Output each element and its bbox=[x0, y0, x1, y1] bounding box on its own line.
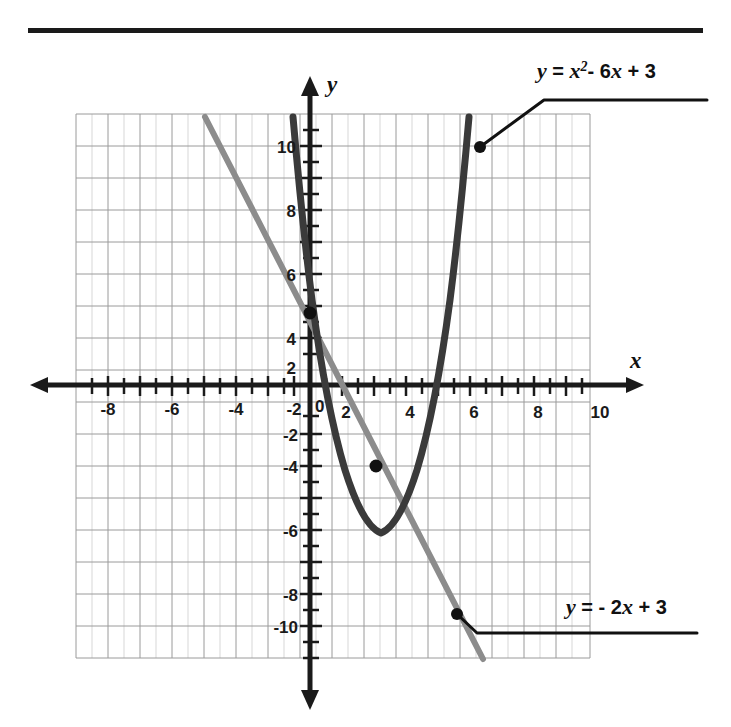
parabola-eq-y: y bbox=[534, 58, 547, 83]
x-tick-label--2: -2 bbox=[286, 400, 301, 419]
x-axis-label: x bbox=[629, 348, 642, 373]
x-tick-label--4: -4 bbox=[228, 400, 244, 419]
x-tick-label-6: 6 bbox=[469, 403, 478, 422]
x-axis-left-arrow bbox=[30, 377, 48, 393]
parabola-equation-label: y = x2- 6x + 3 bbox=[534, 58, 656, 83]
x-axis-right-arrow bbox=[626, 377, 644, 393]
y-tick-label-2: 2 bbox=[287, 359, 296, 378]
y-tick-label-8: 8 bbox=[287, 202, 296, 221]
line-callout-dot bbox=[451, 608, 463, 620]
parabola-eq-x1: x bbox=[569, 58, 581, 83]
y-tick-label--10: -10 bbox=[273, 618, 298, 637]
line-eq-equals: = bbox=[576, 596, 599, 618]
top-divider-rule bbox=[28, 28, 703, 33]
y-tick-label--6: -6 bbox=[283, 522, 298, 541]
y-tick-label--8: -8 bbox=[283, 586, 298, 605]
y-tick-label-6: 6 bbox=[287, 266, 296, 285]
line-eq-y: y bbox=[563, 594, 576, 619]
graph-figure: y x 0 -8 -6 -4 -2 2 4 6 8 10 10 8 6 4 2 … bbox=[0, 0, 731, 727]
line-curve bbox=[205, 117, 483, 659]
y-tick-label--2: -2 bbox=[283, 426, 298, 445]
y-axis-top-arrow bbox=[301, 76, 319, 96]
origin-label: 0 bbox=[315, 397, 324, 416]
y-axis-label: y bbox=[324, 72, 338, 97]
y-tick-label--4: -4 bbox=[283, 458, 299, 477]
x-tick-label-10: 10 bbox=[591, 403, 610, 422]
y-axis-bottom-arrow bbox=[301, 690, 319, 710]
x-tick-label-4: 4 bbox=[405, 403, 415, 422]
parabola-curve bbox=[293, 117, 469, 533]
x-tick-label-2: 2 bbox=[341, 403, 350, 422]
line-equation-label: y = - 2x + 3 bbox=[563, 594, 667, 619]
parabola-eq-equals: = bbox=[547, 60, 570, 82]
parabola-callout-dot bbox=[474, 141, 486, 153]
line-eq-tail: + 3 bbox=[633, 596, 667, 618]
intersection-point-y-intercept bbox=[304, 307, 317, 320]
y-tick-label-4: 4 bbox=[287, 330, 297, 349]
intersection-point-lower bbox=[370, 460, 383, 473]
parabola-eq-exponent: 2 bbox=[580, 59, 588, 74]
parabola-eq-rest: - 6 bbox=[588, 60, 611, 82]
line-eq-coefficient: - 2 bbox=[599, 596, 622, 618]
x-tick-label-8: 8 bbox=[533, 403, 542, 422]
parabola-eq-x2: x bbox=[610, 58, 622, 83]
coordinate-plane-svg: y x 0 -8 -6 -4 -2 2 4 6 8 10 10 8 6 4 2 … bbox=[0, 0, 731, 727]
line-eq-x: x bbox=[621, 594, 633, 619]
parabola-eq-tail: + 3 bbox=[622, 60, 656, 82]
x-tick-label--6: -6 bbox=[164, 400, 179, 419]
y-tick-label-10: 10 bbox=[277, 138, 296, 157]
x-tick-label--8: -8 bbox=[100, 400, 115, 419]
